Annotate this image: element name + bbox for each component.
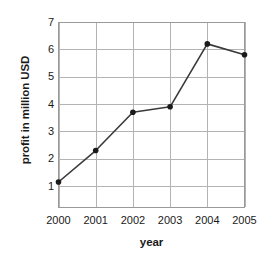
series-line-profit xyxy=(59,44,245,182)
y-tick-label-7: 7 xyxy=(36,17,54,28)
data-point-2004 xyxy=(205,41,211,47)
y-tick-label-4: 4 xyxy=(36,99,54,110)
x-axis-title: year xyxy=(58,236,245,248)
x-tick-label-2001: 2001 xyxy=(76,215,116,226)
plot-area xyxy=(58,22,245,208)
data-point-2001 xyxy=(93,148,99,154)
y-tick-label-6: 6 xyxy=(36,44,54,55)
data-point-2000 xyxy=(56,179,62,185)
plot-svg xyxy=(58,22,245,208)
y-tick-label-3: 3 xyxy=(36,126,54,137)
plot-frame xyxy=(59,23,245,208)
y-tick-label-2: 2 xyxy=(36,153,54,164)
x-tick-label-2003: 2003 xyxy=(150,215,190,226)
x-tick-label-2000: 2000 xyxy=(39,215,79,226)
data-point-2002 xyxy=(130,109,136,115)
y-tick-label-5: 5 xyxy=(36,71,54,82)
line-chart: profit in million USD 1234567 2000200120… xyxy=(0,0,276,263)
data-point-2005 xyxy=(242,52,248,58)
x-axis-tick-labels: 200020012002200320042005 xyxy=(0,215,276,229)
data-point-2003 xyxy=(167,104,173,110)
x-tick-label-2002: 2002 xyxy=(113,215,153,226)
y-tick-label-1: 1 xyxy=(36,181,54,192)
x-tick-label-2004: 2004 xyxy=(187,215,227,226)
x-tick-label-2005: 2005 xyxy=(225,215,265,226)
series-markers-profit xyxy=(56,41,248,185)
